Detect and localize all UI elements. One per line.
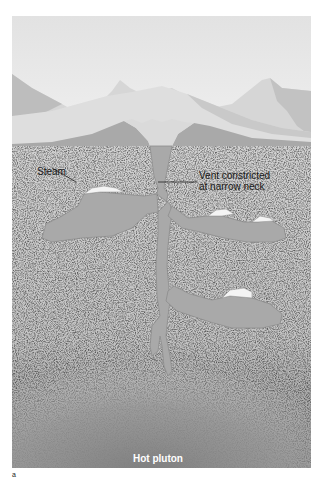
figure-mark: a — [12, 471, 16, 478]
vent-label-line1: Vent constricted — [199, 170, 270, 181]
vent-label-line2: at narrow neck — [199, 181, 270, 192]
hot-pluton-label: Hot pluton — [133, 453, 183, 464]
vent-label: Vent constricted at narrow neck — [199, 170, 270, 192]
geyser-cross-section — [12, 16, 311, 468]
diagram-frame — [12, 16, 311, 468]
steam-label: Steam — [37, 166, 66, 177]
